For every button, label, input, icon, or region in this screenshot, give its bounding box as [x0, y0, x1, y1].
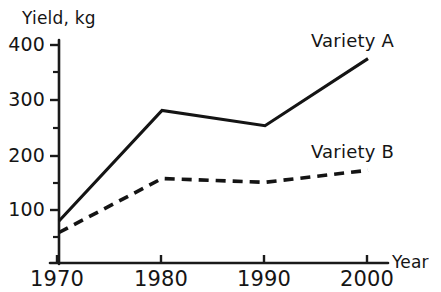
- series-line-variety-a: [59, 59, 368, 221]
- x-tick-label-1970: 1970: [7, 267, 107, 291]
- series-label-variety-a: Variety A: [311, 30, 394, 51]
- x-tick-label-1980: 1980: [111, 267, 211, 291]
- series-label-variety-b: Variety B: [311, 141, 394, 162]
- y-tick-label-100: 100: [0, 198, 45, 220]
- x-tick-label-1990: 1990: [214, 267, 314, 291]
- y-tick-label-200: 200: [0, 144, 45, 166]
- y-axis-title: Yield, kg: [22, 8, 96, 28]
- y-tick-label-400: 400: [0, 33, 45, 55]
- x-axis-title: Year: [392, 252, 429, 272]
- y-tick-label-300: 300: [0, 88, 45, 110]
- yield-line-chart: Yield, kg 400 300 200 100 1970 1980 1990…: [0, 0, 441, 292]
- series-line-variety-b: [59, 170, 368, 232]
